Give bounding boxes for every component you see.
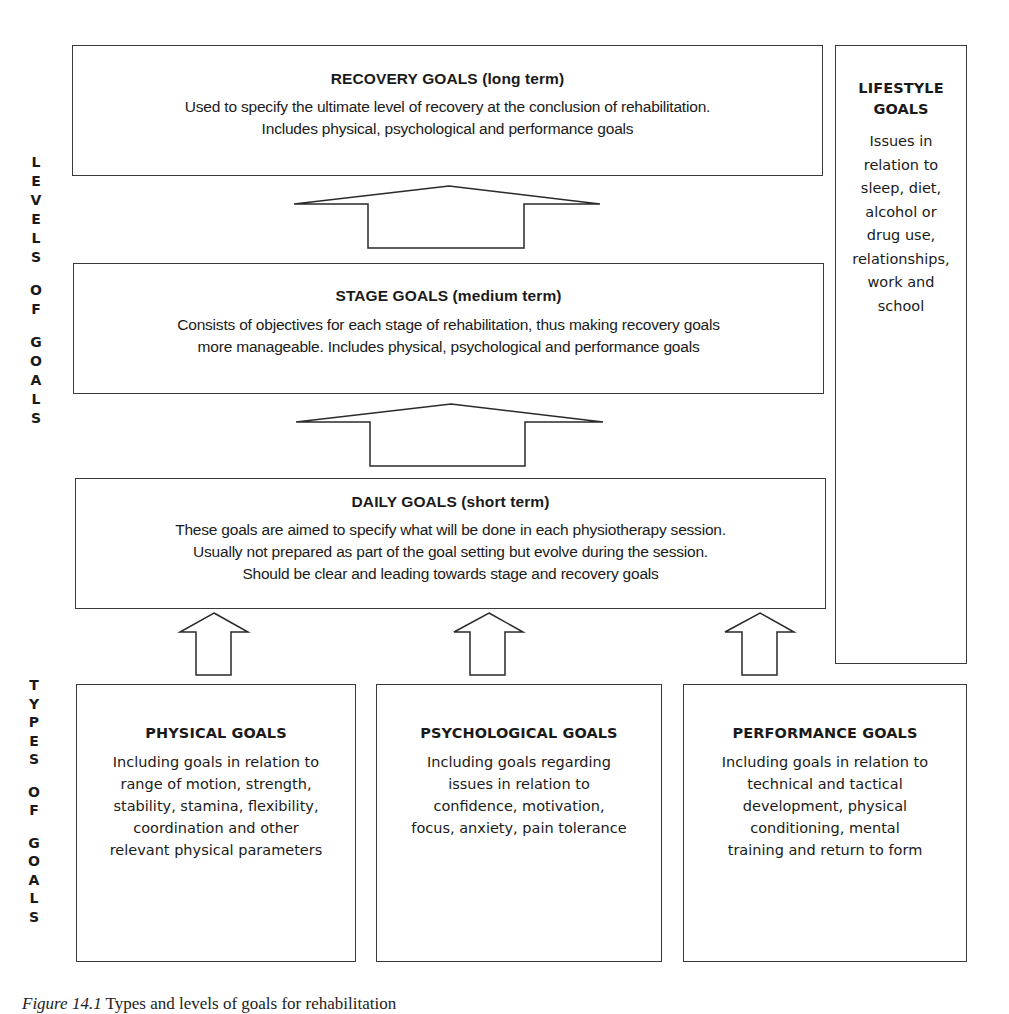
arrow-up-icon-daily-to-stage <box>296 404 603 466</box>
arrow-up-icon-performance-to-daily <box>725 613 794 675</box>
figure-caption: Figure 14.1 Types and levels of goals fo… <box>22 994 396 1014</box>
arrow-up-icon-psychological-to-daily <box>454 613 523 675</box>
arrow-up-icon-stage-to-recovery <box>294 186 600 248</box>
arrow-up-icon-physical-to-daily <box>180 613 248 675</box>
